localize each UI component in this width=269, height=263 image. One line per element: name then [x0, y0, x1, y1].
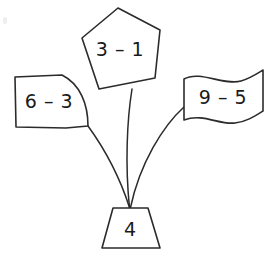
- petal-flag[interactable]: 9 – 5: [184, 70, 263, 123]
- pot-answer: 4: [124, 218, 136, 240]
- petal-pentagon[interactable]: 3 – 1: [82, 8, 160, 89]
- stem-center: [127, 89, 132, 208]
- stem-right: [131, 107, 185, 208]
- left-tag-expression: 6 – 3: [25, 90, 73, 112]
- stem-group: [88, 89, 184, 208]
- worksheet-canvas: 3 – 1 6 – 3 9 – 5 4: [0, 0, 269, 263]
- answer-pot[interactable]: 4: [102, 208, 160, 248]
- pentagon-expression: 3 – 1: [96, 38, 144, 60]
- flag-expression: 9 – 5: [199, 86, 247, 108]
- stem-left: [88, 126, 130, 208]
- petal-left-tag[interactable]: 6 – 3: [15, 75, 88, 128]
- worksheet-drawing: 3 – 1 6 – 3 9 – 5 4: [0, 0, 269, 263]
